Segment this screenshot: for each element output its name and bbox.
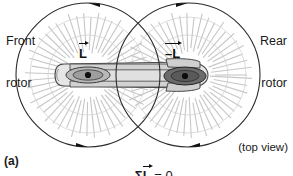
sigma-symbol: Σ bbox=[135, 168, 143, 176]
rear-rotor-cw-top-arrowhead bbox=[176, 3, 188, 7]
top-view-note: (top view) bbox=[238, 141, 288, 154]
helicopter-angular-momentum-figure: Front rotor Rear rotor L –L ΣL = 0 (top … bbox=[0, 0, 293, 176]
rear-rotor-cw-bottom-arrowhead bbox=[188, 143, 200, 147]
net-angular-momentum-equation: ΣL = 0 bbox=[0, 153, 293, 176]
rear-rotor-label-line1: Rear bbox=[260, 34, 287, 48]
vector-neg-L-glyph: –L bbox=[165, 45, 180, 61]
panel-label: (a) bbox=[4, 155, 19, 168]
front-rotor-ccw-top-arrowhead bbox=[88, 3, 100, 7]
angular-momentum-vector-label-front: L bbox=[79, 45, 87, 61]
front-rotor-label: Front rotor bbox=[6, 6, 35, 118]
angular-momentum-vector-label-rear: –L bbox=[165, 45, 180, 61]
rear-rotor-label-line2: rotor bbox=[260, 76, 287, 90]
equation-rest: = 0 bbox=[151, 168, 173, 176]
vector-L-glyph: L bbox=[79, 45, 87, 61]
front-rotor-label-line1: Front bbox=[6, 34, 35, 48]
vector-L-text: L bbox=[79, 46, 87, 61]
front-rotor-label-line2: rotor bbox=[6, 76, 35, 90]
rear-rotor-hub-dot bbox=[182, 73, 188, 79]
rear-rotor-label: Rear rotor bbox=[260, 6, 287, 118]
equation-vector-L-glyph: L bbox=[143, 168, 151, 176]
helicopter-fuselage bbox=[55, 59, 208, 92]
front-rotor-hub-dot bbox=[85, 72, 91, 78]
equation-L-text: L bbox=[143, 168, 151, 176]
vector-neg-L-text: –L bbox=[165, 46, 180, 61]
front-rotor-ccw-bottom-arrowhead bbox=[76, 143, 88, 147]
